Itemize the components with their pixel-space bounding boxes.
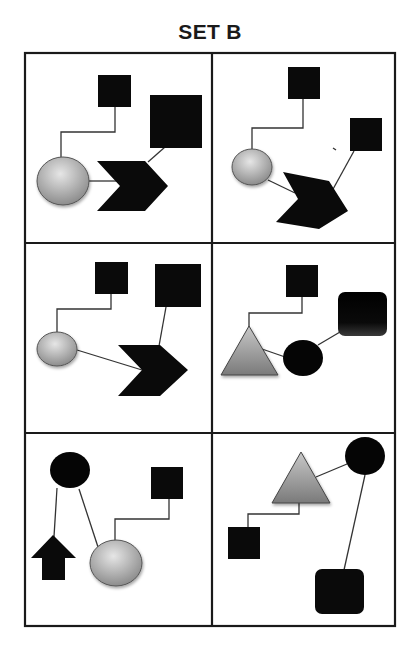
gray-circle bbox=[37, 157, 89, 205]
rounded-square bbox=[338, 292, 387, 336]
black-chevron bbox=[97, 161, 168, 211]
cell-2 bbox=[232, 67, 382, 229]
cell-3 bbox=[37, 262, 201, 396]
black-arrow-up bbox=[31, 535, 76, 580]
small-square bbox=[95, 262, 128, 294]
puzzle-grid bbox=[0, 0, 420, 665]
cell-4 bbox=[221, 265, 387, 376]
small-square bbox=[228, 527, 260, 559]
gray-circle bbox=[90, 540, 142, 586]
small-square bbox=[98, 75, 131, 107]
rounded-square bbox=[315, 569, 364, 614]
black-circle bbox=[283, 340, 323, 376]
cell-1 bbox=[37, 75, 202, 211]
small-square-right bbox=[350, 118, 382, 151]
small-square bbox=[286, 265, 318, 297]
large-square bbox=[150, 95, 202, 148]
cell-5 bbox=[31, 452, 183, 586]
gray-triangle bbox=[272, 452, 330, 503]
gray-circle bbox=[37, 332, 77, 366]
large-square bbox=[155, 264, 201, 307]
cell-6 bbox=[228, 437, 385, 614]
grid-lines bbox=[25, 53, 395, 626]
small-square bbox=[151, 467, 183, 499]
black-circle bbox=[345, 437, 385, 475]
small-square-top bbox=[288, 67, 320, 99]
gray-triangle bbox=[221, 326, 278, 375]
black-circle bbox=[50, 452, 90, 488]
black-chevron bbox=[118, 345, 188, 396]
gray-circle bbox=[232, 149, 272, 185]
